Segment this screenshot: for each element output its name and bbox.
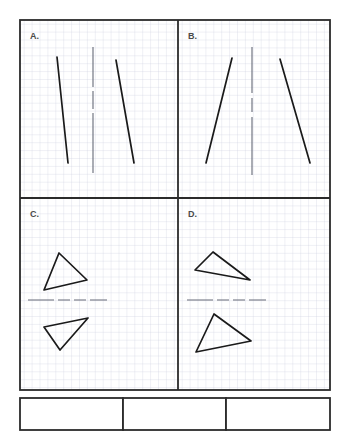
worksheet-canvas: A. B. C. D.: [0, 0, 349, 440]
answer-boxes: [20, 398, 330, 430]
answer-box-2[interactable]: [123, 398, 226, 430]
answer-box-3[interactable]: [226, 398, 330, 430]
panel-d-label: D.: [188, 209, 197, 219]
graph-grid: [20, 20, 330, 390]
worksheet-page: A. B. C. D.: [0, 0, 349, 440]
panel-c-label: C.: [30, 209, 39, 219]
panel-a-label: A.: [30, 31, 39, 41]
panel-b-label: B.: [188, 31, 197, 41]
answer-box-1[interactable]: [20, 398, 123, 430]
grid-area: [20, 20, 330, 390]
